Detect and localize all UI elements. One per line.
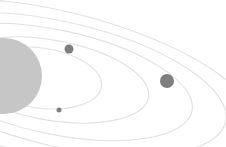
- solar-system-illustration: [0, 0, 226, 147]
- planet-outer: [160, 74, 174, 88]
- planet-middle: [65, 45, 74, 54]
- planet-inner: [57, 108, 62, 113]
